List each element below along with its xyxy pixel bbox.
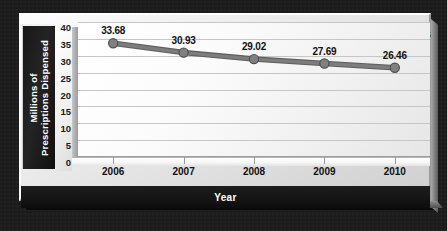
x-tick-mark [184, 157, 185, 164]
y-tick-label: 30 [55, 57, 71, 67]
data-point-label: 33.68 [101, 25, 125, 36]
data-point-label: 27.69 [312, 46, 336, 57]
y-axis-title-line2: Prescriptions Dispensed [39, 40, 50, 156]
y-axis-title: Millions of Prescriptions Dispensed [28, 40, 50, 156]
x-tick-label: 2009 [313, 166, 335, 177]
y-tick-label: 40 [55, 23, 71, 33]
y-tick-label: 10 [55, 124, 71, 134]
y-tick-label: 0 [55, 158, 71, 168]
x-tick-label: 2008 [243, 166, 265, 177]
y-tick-label: 20 [55, 91, 71, 101]
x-tick-mark [254, 157, 255, 164]
y-tick-label: 15 [55, 107, 71, 117]
plaque-right-face [431, 19, 438, 213]
x-tick-label: 2010 [384, 166, 406, 177]
data-point-label: 29.02 [242, 41, 266, 52]
y-tick-label: 5 [55, 141, 71, 151]
y-axis-tick-labels: 4035302520151050 [55, 24, 72, 171]
x-axis-title: Year [214, 192, 236, 203]
data-point-label: 26.46 [383, 50, 407, 61]
y-axis-title-strip: Millions of Prescriptions Dispensed [22, 24, 55, 169]
y-axis-title-line1: Millions of [28, 40, 39, 156]
x-axis-shelf [72, 157, 430, 166]
x-axis-tick-labels: 20062007200820092010 [78, 166, 430, 184]
data-point-labels: 33.6830.9329.0227.6926.46 [78, 22, 430, 157]
chart-container: Estrogens Millions of Prescriptions Disp… [0, 0, 447, 231]
x-tick-mark [324, 157, 325, 164]
x-axis-title-band: Year [21, 186, 430, 208]
y-tick-label: 25 [55, 74, 71, 84]
y-tick-label: 35 [55, 40, 71, 50]
data-point-label: 30.93 [172, 35, 196, 46]
x-tick-mark [395, 157, 396, 164]
x-tick-label: 2006 [102, 166, 124, 177]
x-tick-label: 2007 [172, 166, 194, 177]
x-tick-mark [113, 157, 114, 164]
